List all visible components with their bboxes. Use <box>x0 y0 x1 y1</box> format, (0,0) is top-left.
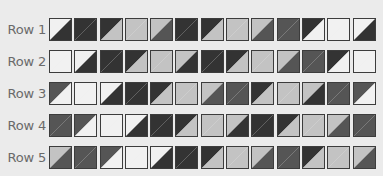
row-label: Row 3 <box>0 86 49 101</box>
row-cells <box>49 50 376 73</box>
grid-row: Row 1 <box>0 17 376 41</box>
grid-cell[interactable] <box>74 146 97 169</box>
grid-cell[interactable] <box>302 50 325 73</box>
pattern-grid: Row 1Row 2Row 3Row 4Row 5 <box>0 0 383 176</box>
grid-cell[interactable] <box>150 50 173 73</box>
grid-cell[interactable] <box>226 114 249 137</box>
grid-cell[interactable] <box>201 50 224 73</box>
grid-cell[interactable] <box>100 82 123 105</box>
grid-cell[interactable] <box>175 18 198 41</box>
grid-cell[interactable] <box>353 50 376 73</box>
grid-cell[interactable] <box>251 114 274 137</box>
grid-cell[interactable] <box>327 146 350 169</box>
grid-cell[interactable] <box>49 82 72 105</box>
grid-cell[interactable] <box>74 50 97 73</box>
grid-cell[interactable] <box>327 50 350 73</box>
grid-cell[interactable] <box>251 82 274 105</box>
grid-cell[interactable] <box>100 50 123 73</box>
grid-cell[interactable] <box>201 18 224 41</box>
grid-cell[interactable] <box>226 146 249 169</box>
grid-cell[interactable] <box>49 18 72 41</box>
grid-cell[interactable] <box>277 50 300 73</box>
grid-cell[interactable] <box>201 146 224 169</box>
grid-cell[interactable] <box>277 146 300 169</box>
grid-cell[interactable] <box>150 146 173 169</box>
grid-cell[interactable] <box>150 114 173 137</box>
grid-cell[interactable] <box>74 18 97 41</box>
grid-cell[interactable] <box>125 146 148 169</box>
grid-cell[interactable] <box>353 18 376 41</box>
grid-row: Row 5 <box>0 145 376 169</box>
grid-cell[interactable] <box>353 82 376 105</box>
grid-row: Row 3 <box>0 81 376 105</box>
grid-cell[interactable] <box>49 50 72 73</box>
grid-cell[interactable] <box>201 114 224 137</box>
grid-cell[interactable] <box>327 18 350 41</box>
grid-cell[interactable] <box>302 114 325 137</box>
grid-cell[interactable] <box>327 114 350 137</box>
grid-cell[interactable] <box>150 82 173 105</box>
grid-cell[interactable] <box>125 18 148 41</box>
grid-row: Row 2 <box>0 49 376 73</box>
grid-cell[interactable] <box>251 50 274 73</box>
grid-cell[interactable] <box>353 114 376 137</box>
grid-row: Row 4 <box>0 113 376 137</box>
grid-cell[interactable] <box>302 146 325 169</box>
grid-cell[interactable] <box>49 114 72 137</box>
grid-cell[interactable] <box>125 50 148 73</box>
grid-cell[interactable] <box>175 82 198 105</box>
grid-cell[interactable] <box>201 82 224 105</box>
grid-cell[interactable] <box>175 50 198 73</box>
grid-cell[interactable] <box>100 114 123 137</box>
grid-cell[interactable] <box>226 82 249 105</box>
grid-cell[interactable] <box>302 18 325 41</box>
grid-cell[interactable] <box>74 114 97 137</box>
grid-cell[interactable] <box>49 146 72 169</box>
row-cells <box>49 18 376 41</box>
grid-cell[interactable] <box>226 18 249 41</box>
grid-cell[interactable] <box>175 114 198 137</box>
grid-cell[interactable] <box>277 18 300 41</box>
row-cells <box>49 82 376 105</box>
grid-cell[interactable] <box>100 146 123 169</box>
row-label: Row 1 <box>0 22 49 37</box>
row-cells <box>49 114 376 137</box>
grid-cell[interactable] <box>74 82 97 105</box>
grid-cell[interactable] <box>125 114 148 137</box>
grid-cell[interactable] <box>226 50 249 73</box>
grid-cell[interactable] <box>302 82 325 105</box>
grid-cell[interactable] <box>277 114 300 137</box>
row-label: Row 2 <box>0 54 49 69</box>
grid-cell[interactable] <box>251 146 274 169</box>
row-cells <box>49 146 376 169</box>
row-label: Row 5 <box>0 150 49 165</box>
grid-cell[interactable] <box>251 18 274 41</box>
grid-cell[interactable] <box>327 82 350 105</box>
grid-cell[interactable] <box>175 146 198 169</box>
grid-cell[interactable] <box>150 18 173 41</box>
grid-cell[interactable] <box>100 18 123 41</box>
row-label: Row 4 <box>0 118 49 133</box>
grid-cell[interactable] <box>277 82 300 105</box>
grid-cell[interactable] <box>353 146 376 169</box>
grid-cell[interactable] <box>125 82 148 105</box>
